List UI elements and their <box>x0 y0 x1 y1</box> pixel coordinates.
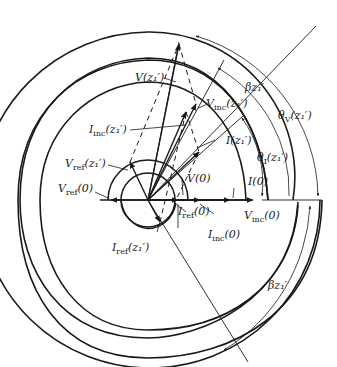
label-vinc-0: Vinc(0) <box>244 210 280 226</box>
label-beta-z1-top: βz₁′ <box>245 82 264 94</box>
vref-semicircle <box>108 160 188 200</box>
label-iinc-0: Iinc(0) <box>208 229 240 245</box>
label-beta-z1-bottom: βz₁′ <box>268 280 287 292</box>
label-iref-0: Iref(0) <box>178 206 209 222</box>
label-theta-i: θI(z₁′) <box>257 152 288 168</box>
label-iinc-z1: Iinc(z₁′) <box>89 124 127 140</box>
phasor-diagram: V(z₁′) Vinc(z₁′) Iinc(z₁′) I(z₁′) Vref(z… <box>0 0 337 367</box>
label-v-z1: V(z₁′) <box>135 72 164 84</box>
label-i-z1: I(z₁′) <box>226 135 252 147</box>
label-vref-z1: Vref(z₁′) <box>65 158 106 174</box>
label-vref-0: Vref(0) <box>58 183 93 199</box>
label-v-0: V(0) <box>187 173 211 185</box>
label-iref-z1: Iref(z₁′) <box>112 242 149 258</box>
label-theta-v: θV(z₁′) <box>278 110 312 126</box>
label-vinc-z1: Vinc(z₁′) <box>206 98 247 114</box>
diagram-graphics <box>0 0 337 367</box>
label-i-0: I(0) <box>248 176 268 188</box>
